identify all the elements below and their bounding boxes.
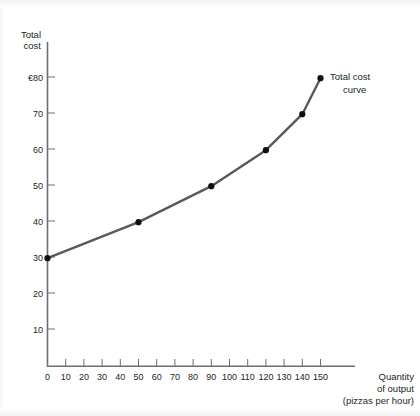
x-tick-label-30: 30: [97, 372, 107, 382]
curve-label-line1: Total cost: [330, 71, 370, 82]
x-tick-label-80: 80: [188, 372, 198, 382]
x-tick-labels: 0 10 20 30 40 50 60 70 80 90 100 110 120…: [45, 372, 328, 382]
x-axis-title: Quantity of output (pizzas per hour): [343, 371, 415, 406]
x-tick-label-90: 90: [206, 372, 216, 382]
x-axis-title-line3: (pizzas per hour): [343, 395, 414, 406]
x-tick-marks: [66, 359, 321, 366]
x-tick-label-70: 70: [170, 372, 180, 382]
x-axis-title-line2: of output: [377, 383, 414, 394]
curve-label-line2: curve: [343, 84, 366, 95]
total-cost-curve-line: [48, 78, 321, 258]
x-tick-label-40: 40: [115, 372, 125, 382]
data-point-2: [208, 183, 214, 189]
x-tick-label-100: 100: [222, 372, 237, 382]
y-tick-marks: [48, 77, 56, 329]
y-tick-label-20: 20: [33, 289, 43, 299]
x-tick-label-130: 130: [277, 372, 292, 382]
data-point-3: [263, 147, 269, 153]
total-cost-curve-chart: Total cost €80 70 60 50 40 30 20 10: [0, 0, 420, 416]
y-axis-title-line2: cost: [24, 40, 42, 51]
y-tick-label-70: 70: [33, 109, 43, 119]
y-tick-label-10: 10: [33, 325, 43, 335]
data-point-1: [135, 219, 141, 225]
x-tick-label-60: 60: [152, 372, 162, 382]
x-tick-label-110: 110: [241, 372, 255, 382]
data-points: [44, 75, 323, 261]
y-tick-label-50: 50: [33, 181, 43, 191]
y-tick-labels: €80 70 60 50 40 30 20 10: [28, 73, 43, 335]
y-axis-title-line1: Total: [21, 29, 41, 40]
x-axis-title-line1: Quantity: [379, 371, 415, 382]
data-point-0: [44, 255, 50, 261]
x-tick-label-10: 10: [61, 372, 71, 382]
x-tick-label-0: 0: [45, 372, 50, 382]
y-tick-label-80: €80: [28, 73, 43, 83]
x-tick-label-50: 50: [133, 372, 143, 382]
curve-annotation: Total cost curve: [330, 71, 370, 95]
data-point-5: [317, 75, 323, 81]
chart-figure: Total cost €80 70 60 50 40 30 20 10: [0, 0, 420, 416]
x-tick-label-20: 20: [79, 372, 89, 382]
y-tick-label-40: 40: [33, 217, 43, 227]
x-tick-label-140: 140: [295, 372, 310, 382]
x-tick-label-150: 150: [313, 372, 328, 382]
x-tick-label-120: 120: [258, 372, 273, 382]
y-tick-label-60: 60: [33, 145, 43, 155]
y-tick-label-30: 30: [33, 253, 43, 263]
data-point-4: [299, 111, 305, 117]
